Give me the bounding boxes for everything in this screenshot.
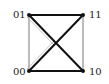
node-00 (27, 69, 31, 73)
faint-edge-01-10 (27, 17, 54, 45)
node-label-11: 11 (89, 10, 102, 20)
node-10 (81, 69, 85, 73)
node-label-10: 10 (89, 67, 102, 77)
node-label-01: 01 (13, 10, 26, 20)
node-01 (27, 13, 31, 17)
node-11 (81, 13, 85, 17)
faint-edge-00-11 (27, 41, 54, 69)
node-label-00: 00 (13, 67, 26, 77)
